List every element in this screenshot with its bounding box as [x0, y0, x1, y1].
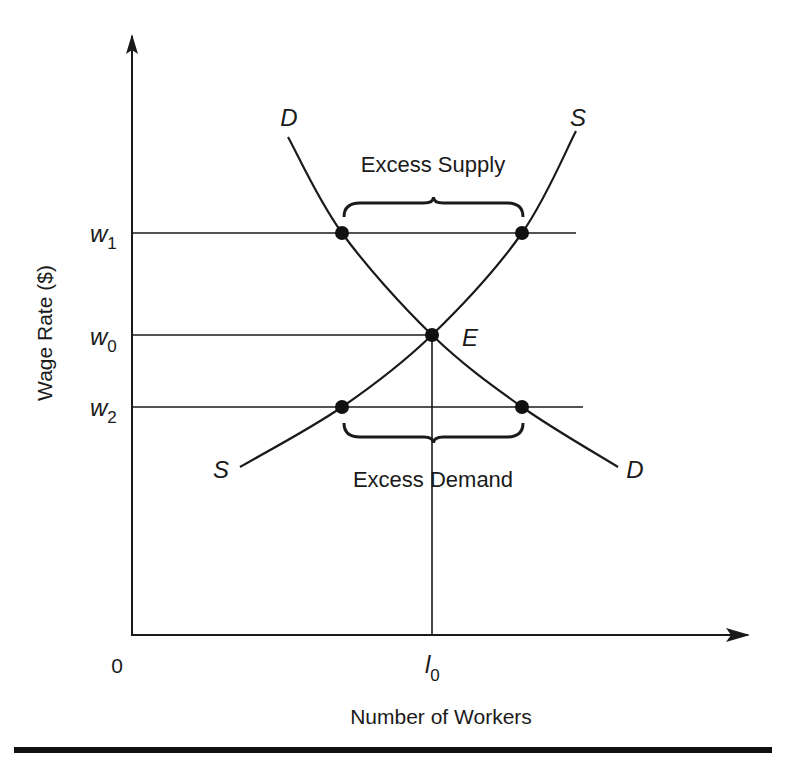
supply-label-top: S — [570, 104, 586, 131]
excess-demand-label: Excess Demand — [353, 467, 513, 492]
y-tick-w2: w2 — [90, 394, 117, 427]
y-tick-w2-main: w — [90, 394, 109, 421]
excess-demand-brace — [344, 423, 523, 443]
point-S-at-w2 — [335, 400, 349, 414]
point-D-at-w2 — [515, 400, 529, 414]
y-tick-w2-sub: 2 — [107, 408, 116, 427]
demand-curve — [288, 137, 618, 467]
x-axis-title: Number of Workers — [350, 705, 532, 728]
y-tick-w1: w1 — [90, 220, 117, 253]
demand-label-top: D — [280, 104, 297, 131]
x-tick-l0-sub: 0 — [430, 666, 439, 685]
supply-curve — [240, 131, 576, 467]
demand-label-bottom: D — [626, 456, 643, 483]
y-tick-w0: w0 — [90, 323, 117, 356]
y-tick-w0-sub: 0 — [107, 337, 116, 356]
y-tick-w1-main: w — [90, 220, 109, 247]
labor-market-diagram: Excess Supply Excess Demand D S S D E w1… — [0, 0, 786, 763]
x-tick-l0: l0 — [425, 651, 440, 685]
excess-supply-brace — [344, 197, 523, 217]
equilibrium-label: E — [462, 324, 479, 351]
point-D-at-w1 — [335, 226, 349, 240]
y-tick-w0-main: w — [90, 323, 109, 350]
supply-label-bottom: S — [213, 456, 229, 483]
excess-supply-label: Excess Supply — [361, 152, 505, 177]
bottom-rule — [14, 747, 772, 753]
y-tick-w1-sub: 1 — [107, 234, 116, 253]
y-axis-title: Wage Rate ($) — [33, 265, 56, 401]
origin-label: 0 — [111, 654, 123, 677]
point-equilibrium — [425, 328, 439, 342]
point-S-at-w1 — [515, 226, 529, 240]
